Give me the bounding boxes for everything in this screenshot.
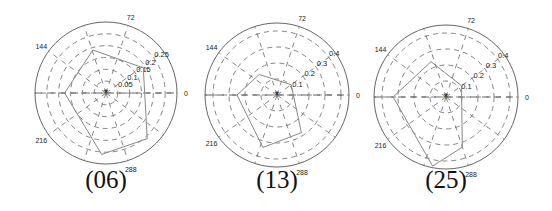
angular-grid-spoke	[277, 95, 335, 137]
angle-tick-label: 144	[206, 44, 218, 51]
angular-grid-spoke	[255, 27, 277, 95]
radial-tick-label: 0.1	[461, 82, 471, 91]
radial-tick-label: 0.4	[498, 51, 508, 60]
polar-chart-2: *0721442162880.10.20.30.4	[374, 17, 529, 178]
angular-grid-spoke	[388, 55, 446, 97]
radial-tick-label: 0.2	[305, 69, 315, 78]
angle-tick-label: 144	[35, 43, 47, 50]
radial-tick-label: 0.25	[154, 50, 169, 59]
center-marker: *	[444, 91, 449, 103]
angle-tick-label: 216	[206, 140, 218, 147]
data-polygon	[237, 75, 301, 148]
angle-tick-label: 0	[525, 94, 529, 101]
caption-13: (13)	[217, 166, 337, 194]
polar-figure: *0721442162880.050.10.150.20.25*07214421…	[0, 0, 552, 211]
angular-grid-spoke	[219, 53, 277, 95]
caption-06: (06)	[46, 166, 166, 194]
radial-tick-label: 0.3	[486, 61, 496, 70]
angular-grid-spoke	[424, 29, 446, 97]
angular-grid-spoke	[424, 97, 446, 165]
caption-25: (25)	[386, 166, 506, 194]
angle-tick-label: 0	[184, 90, 188, 97]
polar-chart-0: *0721442162880.050.10.150.20.25	[35, 14, 188, 173]
radial-tick-label: 0.2	[474, 71, 484, 80]
angular-grid-spoke	[106, 93, 128, 161]
angular-grid-spoke	[255, 95, 277, 163]
radial-tick-label: 0.3	[317, 59, 327, 68]
angle-tick-label: 72	[127, 14, 135, 21]
radial-tick-label: 0.4	[329, 49, 339, 58]
angle-tick-label: 216	[375, 142, 387, 149]
angular-grid-spoke	[49, 51, 106, 93]
center-marker: *	[104, 87, 109, 99]
radial-tick-label: 0.1	[292, 80, 302, 89]
angle-tick-label: 216	[35, 137, 47, 144]
center-marker: *	[275, 89, 280, 101]
angle-tick-label: 72	[298, 15, 306, 22]
data-polygon	[393, 62, 462, 166]
polar-chart-1: *0721442162880.10.20.30.4	[205, 15, 360, 176]
data-polygon	[65, 50, 148, 154]
angle-tick-label: 0	[356, 92, 360, 99]
angular-grid-spoke	[446, 97, 504, 139]
angle-tick-label: 144	[375, 46, 387, 53]
angle-tick-label: 72	[467, 17, 475, 24]
